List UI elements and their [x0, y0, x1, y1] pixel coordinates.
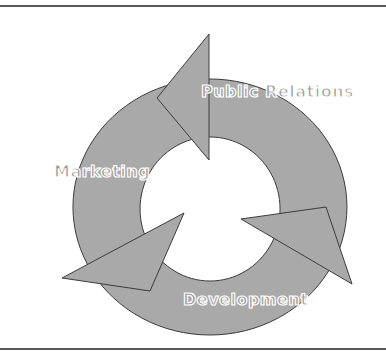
label-marketing: Marketing [54, 162, 150, 181]
label-public-relations: Public Relations [201, 82, 354, 101]
cycle-diagram: Public Relations Marketing Development [0, 0, 386, 361]
label-development: Development [183, 290, 308, 309]
bottom-rule [0, 348, 386, 350]
